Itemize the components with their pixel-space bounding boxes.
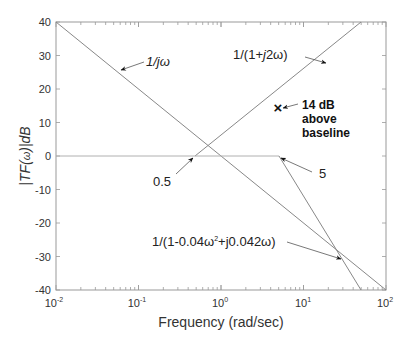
y-tick-neg40: -40 <box>35 284 51 296</box>
annotation-jw: 1/jω <box>146 54 170 69</box>
x-tick-labels: 10-2 10-1 100 101 102 <box>45 296 393 309</box>
y-tick-neg20: -20 <box>35 217 51 229</box>
y-tick-neg30: -30 <box>35 251 51 263</box>
y-tick-0: 0 <box>45 150 51 162</box>
y-tick-neg10: -10 <box>35 184 51 196</box>
x-axis-label: Frequency (rad/sec) <box>158 314 283 330</box>
x-tick-0.1: 10-1 <box>128 296 147 309</box>
annotation-14db-line1: 14 dB <box>302 98 335 112</box>
annotation-14db-line2: above <box>302 112 337 126</box>
annotation-0.5: 0.5 <box>153 174 171 189</box>
y-tick-labels: 40 30 20 10 0 -10 -20 -30 -40 <box>35 16 51 296</box>
annotation-pole: 1/(1+j2ω) <box>233 47 288 62</box>
annotation-quadratic: 1/(1-0.04ω2+j0.042ω) <box>152 234 276 249</box>
bode-magnitude-chart: 40 30 20 10 0 -10 -20 -30 -40 10-2 10-1 … <box>0 0 404 342</box>
x-tick-1: 100 <box>212 296 228 309</box>
x-tick-10: 101 <box>295 296 311 309</box>
y-tick-30: 30 <box>39 50 51 62</box>
marker-14db: × <box>274 99 283 116</box>
y-tick-20: 20 <box>39 83 51 95</box>
x-tick-0.01: 10-2 <box>45 296 64 309</box>
y-tick-40: 40 <box>39 16 51 28</box>
y-axis-label: |TF(ω)|dB <box>17 126 33 185</box>
annotation-5: 5 <box>319 166 326 181</box>
x-tick-100: 102 <box>377 296 393 309</box>
annotation-14db-line3: baseline <box>302 126 350 140</box>
y-tick-10: 10 <box>39 117 51 129</box>
